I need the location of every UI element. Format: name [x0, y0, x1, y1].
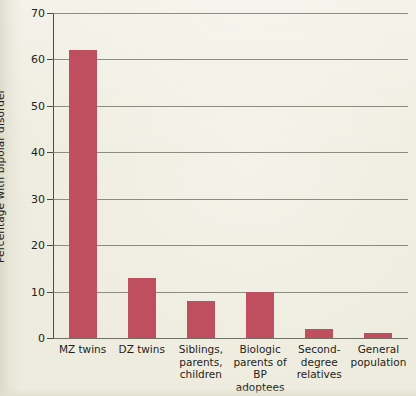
bar: [69, 50, 97, 338]
bar: [187, 301, 215, 338]
y-axis-title: Percentage with bipolar disorder: [0, 89, 6, 263]
gridline-20: [53, 245, 408, 246]
bar: [128, 278, 156, 338]
y-tick-label-50: 50: [0, 99, 45, 112]
gridline-70: [53, 13, 408, 14]
x-axis-label: MZ twins: [53, 343, 112, 356]
bar: [305, 329, 333, 338]
bar-chart-figure: Percentage with bipolar disorder 0102030…: [0, 0, 416, 396]
gridline-60: [53, 59, 408, 60]
x-axis-label: Biologic parents of BP adoptees: [231, 343, 290, 393]
page-edge-shadow: [0, 388, 416, 396]
x-axis-label: Siblings, parents, children: [171, 343, 230, 381]
y-tick-label-20: 20: [0, 239, 45, 252]
y-tick-label-40: 40: [0, 146, 45, 159]
bar: [364, 333, 392, 338]
gridline-50: [53, 106, 408, 107]
x-axis-label: Second- degree relatives: [290, 343, 349, 381]
gridline-10: [53, 292, 408, 293]
y-tick-label-10: 10: [0, 285, 45, 298]
y-tick-label-0: 0: [0, 332, 45, 345]
gridline-30: [53, 199, 408, 200]
gridline-40: [53, 152, 408, 153]
x-axis-label: DZ twins: [112, 343, 171, 356]
y-tick-label-60: 60: [0, 53, 45, 66]
bar: [246, 292, 274, 338]
plot-area: [53, 13, 408, 338]
x-axis-label: General population: [349, 343, 408, 368]
y-tick-label-30: 30: [0, 192, 45, 205]
gridline-0: [53, 338, 408, 339]
y-tick-label-70: 70: [0, 7, 45, 20]
